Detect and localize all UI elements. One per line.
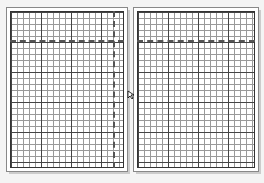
arrow-cursor-icon xyxy=(127,86,137,96)
graph-paper-grid xyxy=(137,11,255,168)
vertical-dashed-guide xyxy=(113,11,115,168)
horizontal-dashed-guide xyxy=(10,40,124,42)
page-left[interactable]: left xyxy=(6,7,128,172)
page-right[interactable]: right xyxy=(133,7,259,172)
graph-paper-grid xyxy=(10,11,124,168)
horizontal-dashed-guide xyxy=(137,40,255,42)
